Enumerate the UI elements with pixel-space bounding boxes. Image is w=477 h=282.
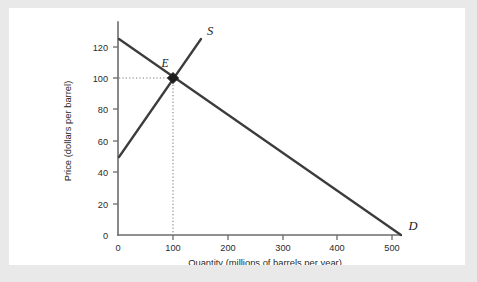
y-tick-label-80: 80 (98, 105, 108, 115)
equilibrium-point-label: E (160, 57, 168, 69)
chart-panel: 120 100 80 60 40 20 0 100 200 300 400 50… (9, 8, 465, 265)
supply-curve-label: S (207, 24, 214, 38)
y-tick-label-40: 40 (98, 168, 108, 178)
x-axis-title: Quantity (millions of barrels per year) (188, 257, 342, 265)
y-tick-label-100: 100 (93, 74, 108, 84)
y-axis-title: Price (dollars per barrel) (62, 81, 73, 182)
x-tick-label-0: 0 (115, 243, 120, 253)
y-tick-label-0: 0 (103, 231, 108, 241)
x-tick-label-200: 200 (220, 243, 235, 253)
x-tick-label-500: 500 (384, 243, 399, 253)
x-tick-label-300: 300 (275, 243, 290, 253)
y-tick-label-20: 20 (98, 200, 108, 210)
x-tick-label-100: 100 (165, 243, 180, 253)
supply-curve (119, 39, 201, 157)
y-tick-label-60: 60 (98, 137, 108, 147)
demand-curve-label: D (407, 219, 417, 233)
x-tick-label-400: 400 (329, 243, 344, 253)
figure-root: 120 100 80 60 40 20 0 100 200 300 400 50… (0, 0, 477, 282)
y-tick-label-120: 120 (93, 43, 108, 53)
supply-demand-chart: 120 100 80 60 40 20 0 100 200 300 400 50… (9, 8, 465, 265)
